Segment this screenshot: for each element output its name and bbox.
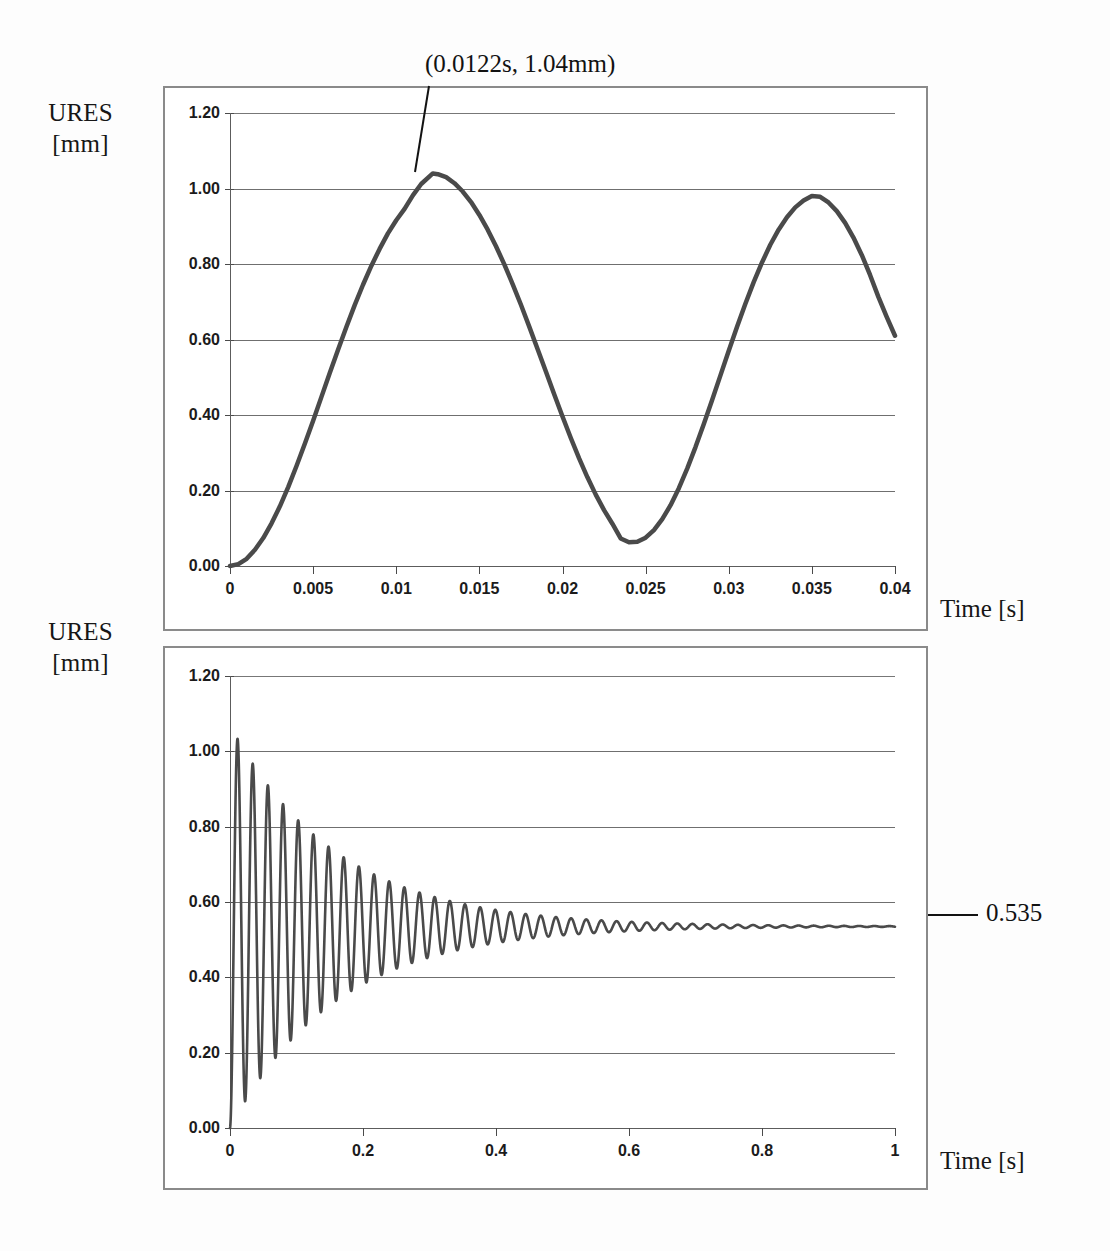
figure-page: URES [mm] 0.000.200.400.600.801.001.2000…: [0, 0, 1110, 1251]
bottom-chart-steady-state-label: 0.535: [986, 899, 1042, 927]
bottom-chart-steady-state-leader-line: [0, 0, 1110, 1251]
